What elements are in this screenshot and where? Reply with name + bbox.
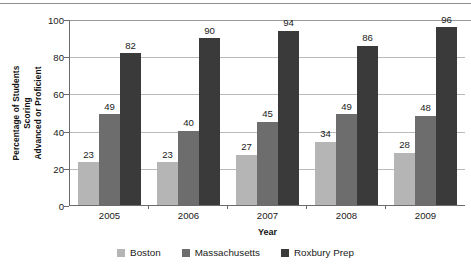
y-axis-title-line-2: Scoring <box>22 97 32 129</box>
bar-group-2009: 28 48 96 <box>386 20 465 205</box>
top-divider-rule <box>0 3 471 4</box>
legend-swatch-icon <box>182 249 190 257</box>
bar-massachusetts-2008[interactable]: 49 <box>336 114 357 205</box>
bar-value-label: 49 <box>341 101 352 112</box>
x-axis-title: Year <box>70 227 465 237</box>
bar-value-label: 82 <box>125 40 136 51</box>
bar-roxbury-2006[interactable]: 90 <box>199 38 220 204</box>
bar-group-2008: 34 49 86 <box>307 20 386 205</box>
x-tick-label-2006: 2006 <box>149 210 228 221</box>
bar-value-label: 23 <box>83 149 94 160</box>
bar-group-2006: 23 40 90 <box>149 20 228 205</box>
x-tick-mark <box>385 205 386 209</box>
bar-value-label: 49 <box>104 101 115 112</box>
bar-boston-2009[interactable]: 28 <box>394 153 415 205</box>
x-tick-label-2008: 2008 <box>307 210 386 221</box>
bar-value-label: 34 <box>320 128 331 139</box>
bar-massachusetts-2006[interactable]: 40 <box>178 131 199 205</box>
legend-item-roxbury-prep[interactable]: Roxbury Prep <box>281 247 354 258</box>
bar-boston-2008[interactable]: 34 <box>315 142 336 205</box>
bar-boston-2005[interactable]: 23 <box>78 162 99 205</box>
bar-value-label: 90 <box>204 25 215 36</box>
bar-value-label: 96 <box>441 14 452 25</box>
bar-value-label: 27 <box>241 141 252 152</box>
bar-boston-2006[interactable]: 23 <box>157 162 178 205</box>
y-tick-mark-20 <box>64 169 69 170</box>
bar-value-label: 86 <box>362 32 373 43</box>
y-tick-mark-0 <box>64 206 69 207</box>
y-tick-label-40: 40 <box>53 126 64 137</box>
y-tick-label-100: 100 <box>48 15 64 26</box>
bar-massachusetts-2009[interactable]: 48 <box>415 116 436 205</box>
y-axis-tick-labels: 0 20 40 60 80 100 <box>40 20 64 206</box>
bar-group-2007: 27 45 94 <box>228 20 307 205</box>
y-tick-mark-40 <box>64 132 69 133</box>
y-tick-mark-80 <box>64 57 69 58</box>
y-axis-title-line-1: Percentage of Students <box>11 66 21 161</box>
bar-massachusetts-2007[interactable]: 45 <box>257 122 278 205</box>
bar-roxbury-2005[interactable]: 82 <box>120 53 141 205</box>
x-axis-line <box>69 205 465 206</box>
y-tick-mark-100 <box>64 20 69 21</box>
x-tick-mark <box>306 205 307 209</box>
chart-legend: Boston Massachusetts Roxbury Prep <box>0 247 471 258</box>
bar-roxbury-2007[interactable]: 94 <box>278 31 299 205</box>
bar-value-label: 48 <box>420 102 431 113</box>
bar-value-label: 94 <box>283 17 294 28</box>
bar-value-label: 23 <box>162 149 173 160</box>
bar-roxbury-2008[interactable]: 86 <box>357 46 378 205</box>
x-tick-label-2005: 2005 <box>70 210 149 221</box>
x-tick-mark <box>148 205 149 209</box>
bar-chart: Percentage of Students Scoring Advanced … <box>0 0 471 274</box>
y-tick-mark-60 <box>64 94 69 95</box>
bar-value-label: 28 <box>399 139 410 150</box>
x-axis-tick-labels: 2005 2006 2007 2008 2009 <box>70 210 465 221</box>
bar-massachusetts-2005[interactable]: 49 <box>99 114 120 205</box>
legend-label-boston: Boston <box>130 247 161 258</box>
x-tick-label-2007: 2007 <box>228 210 307 221</box>
y-tick-label-80: 80 <box>53 52 64 63</box>
bar-group-2005: 23 49 82 <box>70 20 149 205</box>
legend-swatch-icon <box>281 249 289 257</box>
bar-groups: 23 49 82 23 40 90 <box>70 20 465 205</box>
plot-area: 23 49 82 23 40 90 <box>69 20 465 206</box>
bar-value-label: 45 <box>262 108 273 119</box>
x-tick-mark <box>227 205 228 209</box>
legend-item-massachusetts[interactable]: Massachusetts <box>182 247 260 258</box>
bar-value-label: 40 <box>183 117 194 128</box>
bar-boston-2007[interactable]: 27 <box>236 155 257 205</box>
legend-swatch-icon <box>117 249 125 257</box>
legend-label-massachusetts: Massachusetts <box>195 247 260 258</box>
y-tick-label-60: 60 <box>53 89 64 100</box>
x-tick-label-2009: 2009 <box>386 210 465 221</box>
y-tick-label-20: 20 <box>53 163 64 174</box>
legend-label-roxbury-prep: Roxbury Prep <box>294 247 354 258</box>
legend-item-boston[interactable]: Boston <box>117 247 161 258</box>
bar-roxbury-2009[interactable]: 96 <box>436 27 457 204</box>
